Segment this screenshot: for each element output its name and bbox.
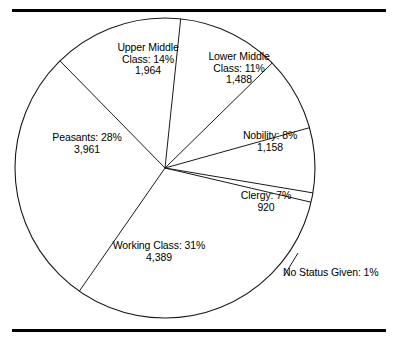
slice-label-line-1: Working Class: 31% [97, 240, 221, 252]
slice-label-nobility: Nobility: 8% 1,158 [224, 130, 316, 153]
slice-label-line-2: 4,389 [97, 252, 221, 264]
slice-label-line-1: Lower Middle [191, 51, 287, 63]
slice-label-line-1: Nobility: 8% [224, 130, 316, 142]
bottom-divider-rule [12, 329, 386, 332]
pie-chart-figure: Upper Middle Class: 14% 1,964 Lower Midd… [0, 0, 398, 343]
slice-label-no-status-given: No Status Given: 1% [283, 267, 395, 279]
slice-label-line-2: 920 [225, 202, 307, 214]
slice-label-line-2: 1,158 [224, 142, 316, 154]
slice-label-line-1: No Status Given: 1% [283, 267, 395, 279]
slice-label-clergy: Clergy: 7% 920 [225, 190, 307, 213]
slice-label-line-2: 3,961 [35, 144, 139, 156]
slice-label-line-1: Peasants: 28% [35, 132, 139, 144]
slice-label-lower-middle-class: Lower Middle Class: 11% 1,488 [191, 51, 287, 86]
slice-label-line-1: Clergy: 7% [225, 190, 307, 202]
slice-label-line-3: 1,964 [96, 65, 200, 77]
slice-label-upper-middle-class: Upper Middle Class: 14% 1,964 [96, 42, 200, 77]
slice-label-line-3: 1,488 [191, 74, 287, 86]
slice-label-line-1: Upper Middle [96, 42, 200, 54]
slice-label-peasants: Peasants: 28% 3,961 [35, 132, 139, 155]
slice-label-working-class: Working Class: 31% 4,389 [97, 240, 221, 263]
